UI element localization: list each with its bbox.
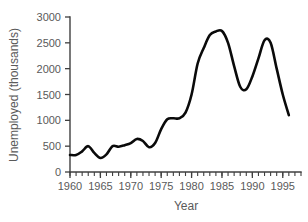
y-axis-tick-labels: 050010001500200025003000	[37, 11, 61, 178]
x-tick-label: 1990	[240, 180, 264, 192]
x-tick-label: 1980	[179, 180, 203, 192]
y-axis: 050010001500200025003000	[37, 11, 70, 178]
unemployed-series-line	[70, 30, 289, 158]
x-tick-label: 1960	[58, 180, 82, 192]
x-axis: 19601965197019751980198519901995	[58, 172, 301, 192]
y-tick-label: 3000	[37, 11, 61, 23]
y-axis-title: Unemployed (thousands)	[7, 28, 21, 162]
x-axis-title: Year	[174, 199, 198, 213]
y-tick-label: 500	[43, 140, 61, 152]
x-tick-label: 1970	[119, 180, 143, 192]
x-tick-label: 1985	[210, 180, 234, 192]
y-tick-label: 0	[55, 166, 61, 178]
x-tick-label: 1995	[271, 180, 295, 192]
y-tick-label: 1500	[37, 89, 61, 101]
x-axis-major-ticks	[70, 172, 283, 178]
unemployment-line-chart: 050010001500200025003000 196019651970197…	[0, 0, 308, 222]
x-tick-label: 1975	[149, 180, 173, 192]
x-tick-label: 1965	[88, 180, 112, 192]
y-tick-label: 1000	[37, 114, 61, 126]
y-tick-label: 2000	[37, 63, 61, 75]
chart-canvas: 050010001500200025003000 196019651970197…	[0, 0, 308, 222]
y-tick-label: 2500	[37, 37, 61, 49]
y-axis-ticks	[65, 17, 70, 172]
x-axis-tick-labels: 19601965197019751980198519901995	[58, 180, 295, 192]
